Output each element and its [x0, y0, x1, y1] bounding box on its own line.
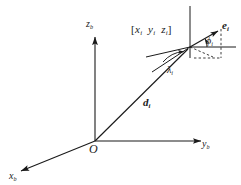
- axis-label-y-sub: b: [206, 143, 209, 150]
- coord-y-sub: i: [153, 29, 155, 36]
- local-frame-group: [146, 6, 236, 72]
- coord-x-sub: i: [140, 29, 142, 36]
- point-coordinates-label: [xiyizi]: [131, 24, 172, 37]
- figure-canvas: zb yb xb O di ei ϕi λi [xiyizi]: [0, 0, 241, 185]
- angle-phi-label-sub: i: [211, 40, 213, 47]
- axis-label-x-sub: b: [13, 175, 16, 182]
- unit-vector-label-sub: i: [227, 25, 229, 32]
- origin-label: O: [89, 143, 98, 155]
- axis-label-z: zb: [86, 19, 93, 30]
- coord-close-bracket: ]: [168, 23, 172, 35]
- angle-phi-label: ϕi: [206, 36, 213, 47]
- range-vector-label: di: [143, 97, 150, 110]
- unit-vector-line: [190, 31, 218, 47]
- range-vector-label-sub: i: [149, 102, 151, 109]
- unit-vector-label: ei: [222, 20, 229, 33]
- angle-lambda-label: λi: [167, 65, 173, 76]
- baseline-ray-left: [146, 47, 190, 57]
- axis-label-z-sub: b: [90, 23, 93, 30]
- axis-label-y: yb: [202, 139, 210, 150]
- unit-vector-group: [190, 31, 218, 47]
- diagram-svg: [0, 0, 241, 185]
- range-vector-line: [95, 49, 188, 141]
- angle-lambda-label-sub: i: [171, 69, 173, 76]
- range-vector-group: [95, 49, 188, 141]
- dashed-angle-baseline: [190, 47, 213, 57]
- axis-x-line: [21, 141, 95, 171]
- axis-label-x: xb: [9, 171, 17, 182]
